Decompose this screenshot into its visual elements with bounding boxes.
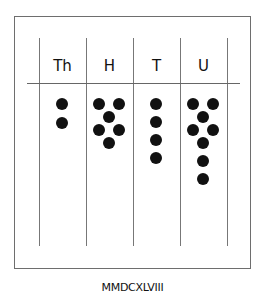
counter-dot [103, 111, 115, 123]
counter-dot [207, 98, 219, 110]
counter-dot [150, 98, 162, 110]
counter-dot [113, 124, 125, 136]
counter-dot [93, 124, 105, 136]
column-header-thousands: Th [39, 57, 86, 75]
header-divider [27, 83, 240, 84]
counter-dot [187, 124, 199, 136]
counter-dot [56, 98, 68, 110]
counter-dot [113, 98, 125, 110]
counter-dot [187, 98, 199, 110]
column-header-hundreds: H [86, 57, 133, 75]
counter-dot [197, 137, 209, 149]
roman-numeral-caption: MMDCXLVIII [0, 281, 265, 294]
column-divider [227, 38, 228, 246]
counter-dot [150, 134, 162, 146]
counter-dot [103, 137, 115, 149]
column-header-units: U [180, 57, 227, 75]
counter-dot [150, 116, 162, 128]
counter-dot [197, 173, 209, 185]
counter-dot [93, 98, 105, 110]
counter-dot [197, 111, 209, 123]
counter-dot [207, 124, 219, 136]
counter-dot [197, 155, 209, 167]
counter-dot [150, 152, 162, 164]
column-header-tens: T [133, 57, 180, 75]
counter-dot [56, 117, 68, 129]
